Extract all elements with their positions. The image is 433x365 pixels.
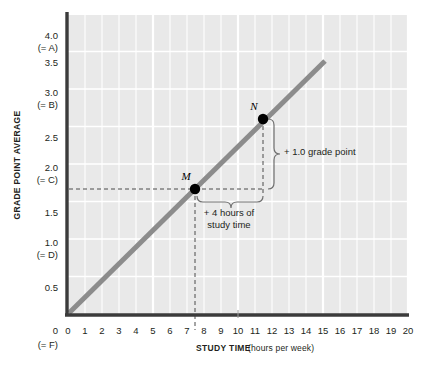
- y-tick-0: 0: [53, 325, 58, 336]
- x-tick-6: 6: [167, 325, 172, 336]
- x-tick-18: 18: [369, 325, 380, 336]
- x-tick-17: 17: [352, 325, 363, 336]
- y-tick-4-0-sub: (= A): [38, 42, 58, 53]
- y-tick-2-5: 2.5: [45, 132, 58, 143]
- y-tick-3-0-sub: (= B): [37, 99, 58, 110]
- y-tick-0-sub: (= F): [38, 339, 58, 350]
- annotation-run-label-line2: study time: [207, 219, 250, 230]
- y-tick-2-0: 2.0: [45, 162, 58, 173]
- x-tick-0: 0: [65, 325, 70, 336]
- x-tick-13: 13: [284, 325, 295, 336]
- data-point-n-label: N: [249, 100, 258, 112]
- annotation-run-label-line1: + 4 hours of: [204, 207, 255, 218]
- x-tick-15: 15: [318, 325, 329, 336]
- y-axis-title: GRADE POINT AVERAGE: [12, 110, 22, 219]
- x-axis-title-sub: (hours per week): [248, 343, 314, 353]
- y-tick-1-0: 1.0: [45, 237, 58, 248]
- x-tick-9: 9: [218, 325, 223, 336]
- x-tick-1: 1: [82, 325, 87, 336]
- x-tick-3: 3: [116, 325, 121, 336]
- data-point-m-label: M: [180, 170, 191, 182]
- x-axis-title: STUDY TIME: [196, 343, 251, 353]
- y-tick-0-5: 0.5: [45, 282, 58, 293]
- x-tick-4: 4: [133, 325, 138, 336]
- y-tick-3-0: 3.0: [45, 87, 58, 98]
- y-tick-3-5: 3.5: [45, 57, 58, 68]
- x-axis-tick-labels: 0 1 2 3 4 5 6 7 8 9 10 11 12 13 14 15 16…: [65, 325, 413, 336]
- y-axis-tick-labels: 4.0 (= A) 3.5 3.0 (= B) 2.5 2.0 (= C) 1.…: [37, 30, 58, 350]
- gpa-study-time-chart: M N + 1.0 grade point + 4 hours of study…: [0, 0, 433, 365]
- data-point-n: [258, 114, 268, 124]
- x-tick-8: 8: [201, 325, 206, 336]
- x-tick-12: 12: [267, 325, 278, 336]
- y-tick-4-0: 4.0: [45, 30, 58, 41]
- x-tick-11: 11: [250, 325, 260, 336]
- y-tick-1-0-sub: (= D): [37, 249, 58, 260]
- y-tick-2-0-sub: (= C): [37, 174, 58, 185]
- annotation-rise-label: + 1.0 grade point: [284, 146, 356, 157]
- x-tick-5: 5: [150, 325, 155, 336]
- x-tick-16: 16: [335, 325, 346, 336]
- x-tick-7: 7: [184, 325, 189, 336]
- chart-figure: M N + 1.0 grade point + 4 hours of study…: [0, 0, 433, 365]
- data-point-m: [190, 184, 200, 194]
- x-tick-19: 19: [386, 325, 397, 336]
- x-tick-10: 10: [233, 325, 244, 336]
- x-tick-20: 20: [403, 325, 414, 336]
- x-tick-14: 14: [301, 325, 312, 336]
- x-tick-2: 2: [99, 325, 104, 336]
- y-tick-1-5: 1.5: [45, 207, 58, 218]
